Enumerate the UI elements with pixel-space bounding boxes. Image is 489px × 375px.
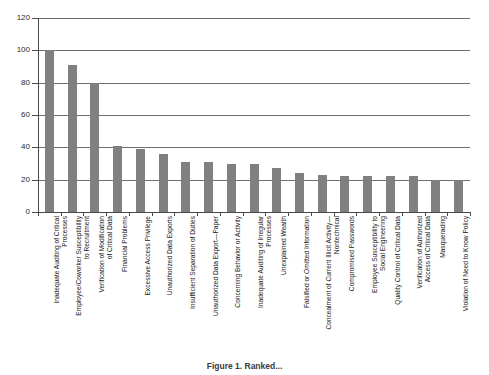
- figure-caption: Figure 1. Ranked...: [0, 361, 489, 371]
- x-axis-category-label: Violation of Need to Know Policy: [462, 216, 470, 348]
- gridline: [38, 18, 470, 19]
- x-axis-category-label: Financial Problems: [121, 216, 129, 348]
- bar: [318, 175, 327, 212]
- y-axis-tick: [32, 50, 38, 51]
- x-axis-category-label: Masquerading: [439, 216, 447, 348]
- bar: [136, 149, 145, 212]
- x-axis-category-label: Employee/Coworker Susceptibility to Recr…: [75, 216, 90, 348]
- x-axis-category-label: Compromised Passwords: [348, 216, 356, 348]
- gridline: [38, 50, 470, 51]
- x-axis-category-label: Inadequate Auditing of Irregular Process…: [257, 216, 272, 348]
- bar: [204, 162, 213, 212]
- y-axis-line: [38, 18, 39, 213]
- x-axis-category-label: Insufficient Separation of Duties: [189, 216, 197, 348]
- x-axis-category-label: Falsified or Omitted Information: [303, 216, 311, 348]
- gridline: [38, 147, 470, 148]
- y-axis-tick: [32, 115, 38, 116]
- y-axis-tick-label: 20: [8, 174, 30, 185]
- bar: [340, 176, 349, 212]
- bar: [272, 168, 281, 212]
- x-axis-tick: [470, 212, 471, 216]
- y-axis-tick: [32, 147, 38, 148]
- x-axis-category-label: Unauthorized Data Exports: [166, 216, 174, 348]
- y-axis-tick-label: 120: [8, 12, 30, 23]
- bar: [431, 180, 440, 212]
- bar: [45, 50, 54, 212]
- x-axis-category-label: Unexplained Wealth: [280, 216, 288, 348]
- x-axis-category-labels: Inadequate Auditing of Critical Processe…: [38, 216, 470, 356]
- y-axis-tick-label: 60: [8, 109, 30, 120]
- bar: [386, 176, 395, 212]
- bar: [159, 154, 168, 212]
- y-axis-tick: [32, 18, 38, 19]
- x-axis-category-label: Verification of Modification of Critical…: [98, 216, 113, 348]
- y-axis-tick-label: 0: [8, 206, 30, 217]
- x-axis-line: [38, 212, 470, 213]
- x-axis-category-label: Inadequate Auditing of Critical Processe…: [53, 216, 68, 348]
- x-axis-category-label: Concerning Behavior or Activity: [234, 216, 242, 348]
- bar: [68, 65, 77, 212]
- gridline: [38, 115, 470, 116]
- x-axis-category-label: Quality Control of Critical Data: [394, 216, 402, 348]
- x-axis-category-label: Verification of Authorized Access of Cri…: [416, 216, 431, 348]
- x-axis-category-label: Unauthorized Data Export—Paper: [212, 216, 220, 348]
- gridline: [38, 83, 470, 84]
- bar: [181, 162, 190, 212]
- x-axis-category-label: Concealment of Current Illicit Activity—…: [325, 216, 340, 348]
- y-axis-tick-label: 40: [8, 141, 30, 152]
- bar: [454, 180, 463, 212]
- bar: [295, 173, 304, 212]
- y-axis-tick-label: 80: [8, 77, 30, 88]
- y-axis-tick: [32, 180, 38, 181]
- x-axis-category-label: Excessive Access Privilege: [144, 216, 152, 348]
- bar: [113, 146, 122, 212]
- bar: [250, 164, 259, 213]
- y-axis-tick-label: 100: [8, 44, 30, 55]
- plot-area: [38, 18, 470, 212]
- x-axis-category-label: Employee Susceptibility to Social Engine…: [371, 216, 386, 348]
- bar: [90, 83, 99, 212]
- bar: [227, 164, 236, 213]
- y-axis-tick: [32, 83, 38, 84]
- bar: [363, 176, 372, 212]
- bar: [409, 176, 418, 212]
- figure-container: 020406080100120 Inadequate Auditing of C…: [0, 0, 489, 375]
